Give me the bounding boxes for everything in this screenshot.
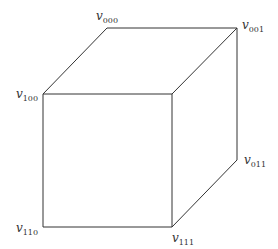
cube-edges (43, 28, 237, 227)
label-v000: v000 (96, 9, 118, 25)
cube-diagram: v000 v001 v100 v011 v110 v111 (0, 0, 278, 249)
edge-v001-v101 (172, 28, 237, 94)
label-v110: v110 (16, 221, 38, 237)
label-v001: v001 (242, 18, 264, 34)
edge-v000-v100 (43, 28, 107, 94)
vertex-labels: v000 v001 v100 v011 v110 v111 (16, 9, 266, 247)
edge-v011-v111 (172, 160, 237, 227)
label-v100: v100 (16, 87, 38, 103)
label-v111: v111 (172, 231, 194, 247)
label-v011: v011 (244, 153, 266, 169)
